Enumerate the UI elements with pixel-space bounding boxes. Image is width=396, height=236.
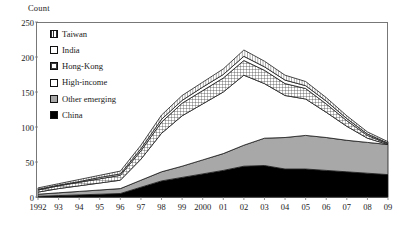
legend-label-high-income: High-income	[62, 78, 107, 87]
legend-label-hong-kong: Hong-Kong	[62, 62, 103, 71]
legend-item-china[interactable]: China	[50, 107, 116, 123]
legend-label-taiwan: Taiwan	[62, 30, 87, 39]
black-swatch	[50, 111, 58, 119]
legend-item-other-emerging[interactable]: Other emerging	[50, 91, 116, 107]
white-swatch	[50, 79, 58, 87]
legend-item-hong-kong[interactable]: Hong-Kong	[50, 58, 116, 74]
gray-swatch	[50, 95, 58, 103]
legend-item-high-income[interactable]: High-income	[50, 75, 116, 91]
stacked-area-chart: Count 250 200 150 100 50 0 1992939495	[0, 0, 396, 236]
legend-label-china: China	[62, 111, 83, 120]
legend-label-other-emerging: Other emerging	[62, 95, 116, 104]
light-cross-swatch	[50, 46, 58, 54]
x-tick-09: 09	[374, 202, 396, 212]
chart-legend: Taiwan India Hong-Kong High-income Other…	[50, 26, 116, 123]
cross-hatch-swatch	[50, 62, 58, 70]
legend-item-taiwan[interactable]: Taiwan	[50, 26, 116, 42]
legend-item-india[interactable]: India	[50, 42, 116, 58]
vertical-hatch-swatch	[50, 30, 58, 38]
legend-label-india: India	[62, 46, 80, 55]
